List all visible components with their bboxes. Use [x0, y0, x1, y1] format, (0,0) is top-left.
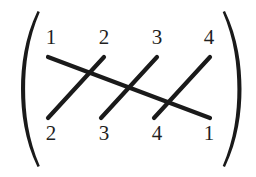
- bottom-label-2: 3: [99, 121, 110, 145]
- bottom-label-3: 4: [152, 121, 163, 145]
- top-label-4: 4: [204, 25, 215, 49]
- top-label-1: 1: [46, 25, 57, 49]
- permutation-diagram-canvas: 1 2 3 4 2 3 4 1: [0, 0, 256, 177]
- bottom-label-1: 2: [46, 121, 57, 145]
- permutation-diagram-figure: 1 2 3 4 2 3 4 1: [0, 0, 256, 177]
- top-label-3: 3: [152, 25, 163, 49]
- bottom-label-4: 1: [204, 121, 215, 145]
- top-label-2: 2: [99, 25, 110, 49]
